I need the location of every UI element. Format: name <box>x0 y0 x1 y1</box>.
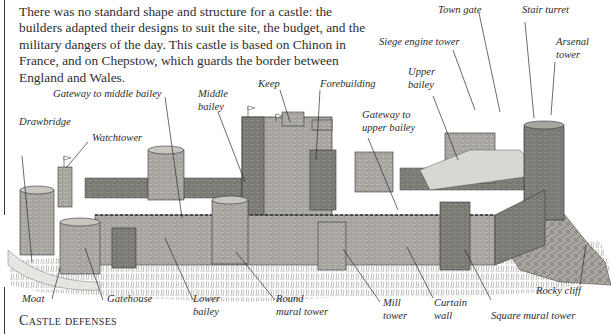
label-lower-bailey: Lower bailey <box>193 293 220 318</box>
label-forebuilding: Forebuilding <box>320 78 376 91</box>
label-lower-bailey-line2: bailey <box>193 306 220 319</box>
label-upper-bailey-line2: bailey <box>408 79 435 92</box>
label-stair-turret: Stair turret <box>522 4 569 17</box>
label-square-mural-tower: Square mural tower <box>491 310 575 323</box>
label-upper-bailey: Upper bailey <box>408 66 435 91</box>
label-gateway-upper-bailey: Gateway to upper bailey <box>362 109 415 134</box>
label-curtain-wall-line1: Curtain <box>434 297 467 310</box>
label-keep: Keep <box>258 78 280 91</box>
label-round-mural-tower: Round mural tower <box>276 293 328 318</box>
label-middle-bailey-line2: bailey <box>198 101 228 114</box>
label-town-gate: Town gate <box>438 4 481 17</box>
label-round-mural-tower-line1: Round <box>276 293 328 306</box>
label-round-mural-tower-line2: mural tower <box>276 306 328 319</box>
label-middle-bailey-line1: Middle <box>198 88 228 101</box>
label-lower-bailey-line1: Lower <box>193 293 220 306</box>
label-mill-tower-line2: tower <box>383 310 407 323</box>
label-middle-bailey: Middle bailey <box>198 88 228 113</box>
label-moat: Moat <box>22 293 44 306</box>
label-arsenal-tower-line2: tower <box>556 49 589 62</box>
label-gateway-upper-bailey-line2: upper bailey <box>362 122 415 135</box>
label-watchtower: Watchtower <box>92 132 142 145</box>
label-upper-bailey-line1: Upper <box>408 66 435 79</box>
label-gatehouse: Gatehouse <box>107 293 152 306</box>
label-mill-tower-line1: Mill <box>383 297 407 310</box>
label-curtain-wall-line2: wall <box>434 310 467 323</box>
label-rocky-cliff: Rocky cliff <box>536 285 581 298</box>
label-arsenal-tower-line1: Arsenal <box>556 36 589 49</box>
label-gateway-middle-bailey: Gateway to middle bailey <box>53 88 162 101</box>
label-drawbridge: Drawbridge <box>19 116 71 129</box>
figure-caption: Castle defenses <box>19 313 117 329</box>
castle-illustration <box>0 0 611 334</box>
label-arsenal-tower: Arsenal tower <box>556 36 589 61</box>
label-curtain-wall: Curtain wall <box>434 297 467 322</box>
label-gateway-upper-bailey-line1: Gateway to <box>362 109 415 122</box>
label-mill-tower: Mill tower <box>383 297 407 322</box>
label-siege-engine-tower: Siege engine tower <box>379 36 460 49</box>
